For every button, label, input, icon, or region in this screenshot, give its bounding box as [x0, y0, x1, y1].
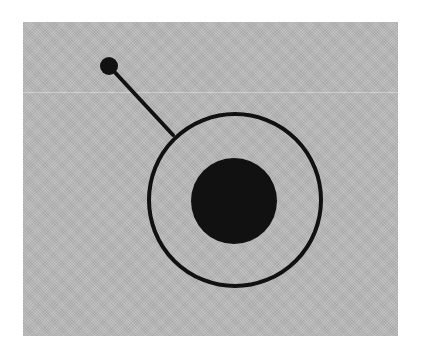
- cell-diagram: [0, 0, 422, 351]
- nucleus-disc: [191, 158, 277, 244]
- diagram-canvas: [0, 0, 422, 351]
- knob-dot: [100, 57, 118, 75]
- stalk-line: [109, 66, 173, 135]
